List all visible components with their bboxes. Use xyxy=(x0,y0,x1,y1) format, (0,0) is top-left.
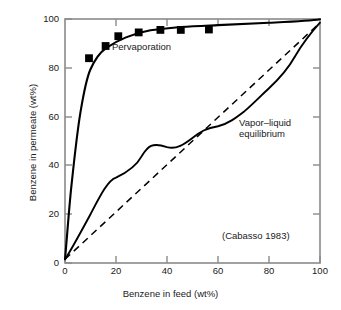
diagonal-reference-line xyxy=(65,23,320,260)
x-tick-label-80: 80 xyxy=(254,265,284,276)
x-tick-label-20: 20 xyxy=(101,265,131,276)
y-tick-label-0: 0 xyxy=(28,257,59,268)
x-axis-ticks-top xyxy=(116,19,269,26)
data-point-marker xyxy=(135,29,143,37)
y-axis-ticks-right xyxy=(313,68,320,214)
x-tick-label-100: 100 xyxy=(305,265,335,276)
data-point-marker xyxy=(102,42,110,50)
x-tick-label-40: 40 xyxy=(152,265,182,276)
y-tick-label-100: 100 xyxy=(28,13,59,24)
data-point-marker xyxy=(205,26,213,34)
vapor-liquid-equilibrium-label: Vapor–liquid equilibrium xyxy=(239,118,291,140)
data-point-marker xyxy=(114,32,122,40)
vle-label-line-2: equilibrium xyxy=(239,129,291,140)
x-axis-ticks xyxy=(65,256,320,263)
data-point-marker xyxy=(177,26,185,34)
x-axis-title: Benzene in feed (wt%) xyxy=(0,288,341,299)
y-axis-title: Benzene in permeate (wt%) xyxy=(27,48,38,238)
x-tick-label-60: 60 xyxy=(203,265,233,276)
data-point-marker xyxy=(157,26,165,34)
data-point-marker xyxy=(85,54,93,62)
pervaporation-label: Pervaporation xyxy=(112,42,171,53)
source-citation: (Cabasso 1983) xyxy=(222,231,290,242)
pervaporation-vle-chart: 0 20 40 60 80 100 0 20 40 60 80 100 Benz… xyxy=(0,0,341,310)
